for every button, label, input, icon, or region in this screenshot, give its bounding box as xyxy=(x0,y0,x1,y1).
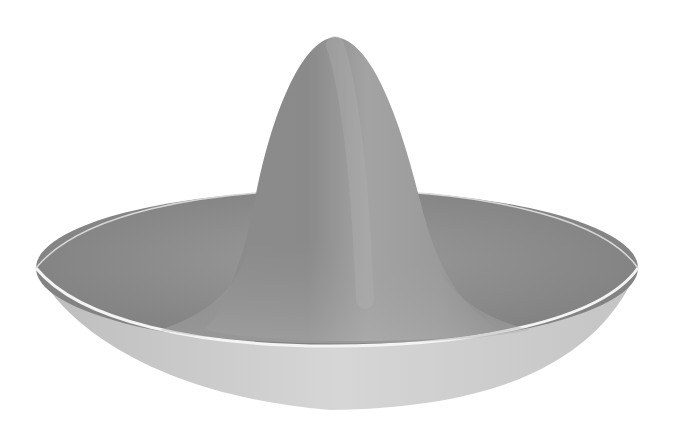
figure-canvas xyxy=(0,0,675,441)
sombrero-surface-plot xyxy=(0,0,675,441)
